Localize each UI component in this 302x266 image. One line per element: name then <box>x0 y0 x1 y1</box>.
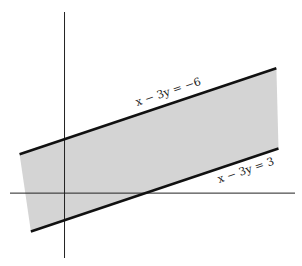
band-chart: x − 3y = −6 x − 3y = 3 <box>0 0 302 266</box>
